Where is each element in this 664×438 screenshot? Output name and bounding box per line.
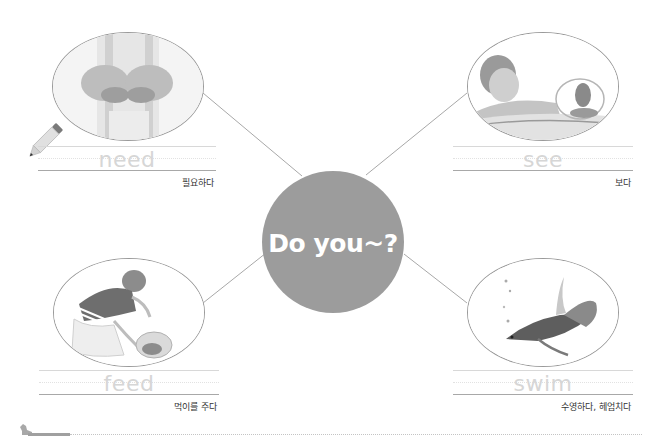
meaning-swim: 수영하다, 헤엄치다 xyxy=(561,400,631,413)
meaning-feed: 먹이를 주다 xyxy=(174,400,217,413)
footer-accent-bar xyxy=(28,433,70,436)
center-title: Do you~? xyxy=(268,229,397,258)
betta-fish-image xyxy=(468,259,618,366)
girl-fishbowl-image xyxy=(468,33,618,140)
trace-word-swim: swim xyxy=(453,373,633,395)
see-photo-ellipse xyxy=(467,32,619,141)
trace-word-need: need xyxy=(38,149,216,171)
meaning-see: 보다 xyxy=(615,176,631,189)
feed-writing-lines: feed 먹이를 주다 xyxy=(39,370,219,414)
meaning-need: 필요하다 xyxy=(182,176,214,189)
girl-feeding-fish-image xyxy=(54,259,204,366)
footer-dotted-rule xyxy=(70,434,642,435)
center-topic-circle: Do you~? xyxy=(262,171,404,313)
trace-word-see: see xyxy=(453,149,633,171)
need-photo-ellipse xyxy=(52,32,204,141)
see-writing-lines: see 보다 xyxy=(453,146,633,190)
feed-photo-ellipse xyxy=(53,258,205,367)
swim-writing-lines: swim 수영하다, 헤엄치다 xyxy=(453,370,633,414)
swim-photo-ellipse xyxy=(467,258,619,367)
cupped-hands-image xyxy=(53,33,203,140)
need-writing-lines: need 필요하다 xyxy=(38,146,216,190)
trace-word-feed: feed xyxy=(39,373,219,395)
